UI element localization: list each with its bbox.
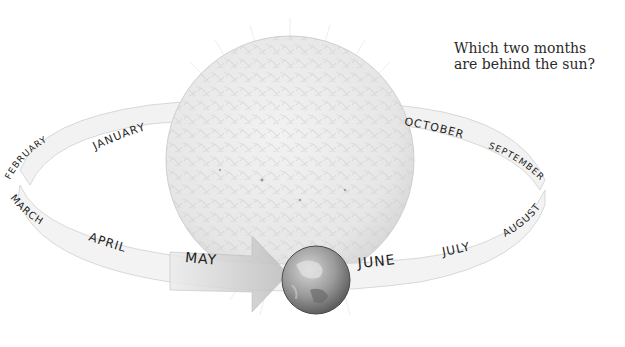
question-text: Which two months are behind the sun?: [454, 40, 624, 72]
earth: [282, 246, 350, 314]
orbit-diagram: JANUARY FEBRUARY MARCH APRIL MAY JUNE JU…: [0, 0, 625, 347]
sun: [166, 36, 414, 284]
question-line-2: are behind the sun?: [454, 56, 624, 72]
question-line-1: Which two months: [454, 40, 624, 56]
month-label-may: MAY: [185, 249, 218, 267]
